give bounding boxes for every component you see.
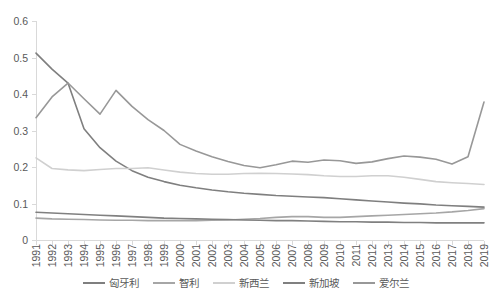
x-tick-label: 1991: [31, 244, 42, 267]
x-tick-label: 2009: [319, 244, 330, 267]
series-line: [36, 158, 484, 185]
x-tick-label: 2011: [351, 244, 362, 267]
legend-label: 智利: [179, 278, 199, 289]
x-tick-label: 2019: [479, 244, 490, 267]
legend-label: 匈牙利: [109, 278, 139, 289]
series-line: [36, 212, 484, 223]
y-tick-mark: [32, 58, 36, 59]
x-tick-label: 2004: [239, 244, 250, 267]
x-tick-label: 2002: [207, 244, 218, 267]
y-tick-label: 0.1: [0, 199, 28, 210]
y-tick-label: 0.6: [0, 16, 28, 27]
legend-label: 新加坡: [309, 278, 339, 289]
legend-item[interactable]: 匈牙利: [83, 278, 139, 289]
y-tick-mark: [32, 94, 36, 95]
x-tick-label: 1994: [79, 244, 90, 267]
x-tick-label: 2008: [303, 244, 314, 267]
x-tick-label: 2001: [191, 244, 202, 267]
y-tick-label: 0.4: [0, 89, 28, 100]
x-tick-label: 2013: [383, 244, 394, 267]
x-tick-label: 1992: [47, 244, 58, 267]
x-tick-label: 1997: [127, 244, 138, 267]
y-tick-mark: [32, 204, 36, 205]
x-tick-label: 2005: [255, 244, 266, 267]
x-tick-label: 1995: [95, 244, 106, 267]
line-chart: 00.10.20.30.40.50.6 19911992199319941995…: [0, 0, 492, 303]
legend-swatch: [153, 282, 175, 284]
legend-swatch: [213, 282, 235, 284]
series-line: [36, 209, 484, 221]
x-tick-label: 2017: [447, 244, 458, 267]
x-tick-label: 1998: [143, 244, 154, 267]
y-tick-label: 0: [0, 235, 28, 246]
x-tick-label: 2007: [287, 244, 298, 267]
legend-item[interactable]: 爱尔兰: [353, 278, 409, 289]
x-tick-label: 1999: [159, 244, 170, 267]
y-tick-mark: [32, 21, 36, 22]
x-tick-label: 1996: [111, 244, 122, 267]
y-axis-line: [36, 21, 37, 241]
x-tick-label: 2003: [223, 244, 234, 267]
legend-swatch: [353, 282, 375, 284]
x-tick-label: 2015: [415, 244, 426, 267]
x-tick-label: 2010: [335, 244, 346, 267]
legend-label: 新西兰: [239, 278, 269, 289]
legend-item[interactable]: 新西兰: [213, 278, 269, 289]
x-tick-label: 1993: [63, 244, 74, 267]
legend-item[interactable]: 智利: [153, 278, 199, 289]
y-tick-mark: [32, 167, 36, 168]
series-line: [36, 83, 484, 168]
x-tick-label: 2014: [399, 244, 410, 267]
y-tick-label: 0.3: [0, 126, 28, 137]
chart-legend: 匈牙利智利新西兰新加坡爱尔兰: [0, 278, 492, 289]
x-tick-label: 2006: [271, 244, 282, 267]
y-tick-label: 0.5: [0, 53, 28, 64]
series-line: [36, 53, 484, 207]
x-tick-label: 2012: [367, 244, 378, 267]
legend-swatch: [83, 282, 105, 284]
x-tick-label: 2000: [175, 244, 186, 267]
legend-label: 爱尔兰: [379, 278, 409, 289]
y-tick-mark: [32, 131, 36, 132]
legend-item[interactable]: 新加坡: [283, 278, 339, 289]
legend-swatch: [283, 282, 305, 284]
x-tick-label: 2016: [431, 244, 442, 267]
x-tick-label: 2018: [463, 244, 474, 267]
y-tick-label: 0.2: [0, 162, 28, 173]
